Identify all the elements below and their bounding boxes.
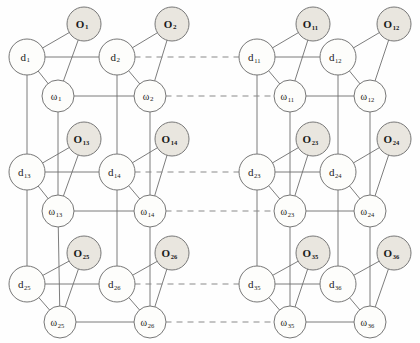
- observation-node-O23[interactable]: O23: [296, 122, 330, 156]
- decision-node-d24[interactable]: d24: [320, 154, 356, 190]
- weight-node-w1[interactable]: ω1: [42, 80, 74, 112]
- edge: [42, 32, 70, 48]
- weight-node-w11[interactable]: ω11: [274, 80, 306, 112]
- edge: [65, 269, 78, 308]
- edge: [132, 147, 158, 163]
- weight-node-w35[interactable]: ω35: [274, 306, 306, 338]
- decision-node-d26[interactable]: d26: [99, 266, 135, 302]
- decision-node-d35[interactable]: d35: [239, 266, 275, 302]
- edge: [295, 269, 308, 308]
- edge: [155, 269, 167, 308]
- edge: [353, 32, 380, 48]
- weight-node-w2[interactable]: ω2: [134, 80, 166, 112]
- weight-node-w23[interactable]: ω23: [274, 195, 306, 227]
- weight-node-w14[interactable]: ω14: [134, 195, 166, 227]
- edge: [375, 269, 388, 308]
- weight-node-w26[interactable]: ω26: [134, 306, 166, 338]
- edge: [272, 261, 298, 276]
- edge: [128, 70, 140, 84]
- edge: [272, 147, 299, 163]
- lattice-diagram: O1O2O11O12O13O14O23O24O25O26O35O36d1d2d1…: [0, 0, 420, 343]
- edge: [268, 70, 280, 84]
- observation-node-O1[interactable]: O1: [67, 7, 101, 41]
- edge: [268, 185, 280, 199]
- observation-node-O35[interactable]: O35: [296, 236, 330, 270]
- observation-node-O24[interactable]: O24: [377, 122, 411, 156]
- edge: [42, 261, 69, 276]
- edge: [349, 186, 360, 199]
- decision-node-d25[interactable]: d25: [9, 266, 45, 302]
- edge: [128, 185, 140, 199]
- edge: [128, 297, 139, 310]
- edge: [38, 297, 49, 310]
- edge: [375, 40, 389, 82]
- decision-node-d13[interactable]: d13: [9, 154, 45, 190]
- decision-node-d2[interactable]: d2: [99, 39, 135, 75]
- observation-node-O12[interactable]: O12: [377, 7, 411, 41]
- observation-node-O26[interactable]: O26: [155, 236, 189, 270]
- observation-node-O36[interactable]: O36: [377, 236, 411, 270]
- decision-node-d11[interactable]: d11: [239, 39, 275, 75]
- edge: [63, 155, 78, 197]
- edge: [132, 261, 157, 275]
- edge: [38, 186, 48, 199]
- edge: [155, 155, 168, 196]
- edge: [349, 297, 360, 310]
- observation-node-O14[interactable]: O14: [155, 122, 189, 156]
- decision-node-d23[interactable]: d23: [239, 154, 275, 190]
- decision-node-d12[interactable]: d12: [320, 39, 356, 75]
- edge: [295, 40, 308, 82]
- observation-node-O13[interactable]: O13: [67, 122, 101, 156]
- edge: [375, 155, 389, 197]
- observation-node-O25[interactable]: O25: [67, 236, 101, 270]
- edge: [63, 40, 78, 82]
- decision-node-d1[interactable]: d1: [9, 39, 45, 75]
- weight-node-w12[interactable]: ω12: [354, 80, 386, 112]
- edge: [353, 147, 380, 163]
- observation-node-O11[interactable]: O11: [296, 7, 330, 41]
- edge: [155, 40, 168, 81]
- edge: [349, 71, 360, 84]
- weight-node-w25[interactable]: ω25: [44, 306, 76, 338]
- edge: [132, 32, 158, 48]
- decision-node-d14[interactable]: d14: [99, 154, 135, 190]
- graph-canvas: O1O2O11O12O13O14O23O24O25O26O35O36d1d2d1…: [0, 0, 420, 343]
- edge: [272, 32, 299, 48]
- edge: [295, 155, 308, 197]
- observation-node-O2[interactable]: O2: [155, 7, 189, 41]
- weight-node-w36[interactable]: ω36: [354, 306, 386, 338]
- edge: [268, 297, 279, 310]
- weight-node-w24[interactable]: ω24: [354, 195, 386, 227]
- edge: [42, 147, 70, 163]
- weight-node-w13[interactable]: ω13: [42, 195, 74, 227]
- edge: [38, 71, 48, 84]
- edge: [353, 261, 379, 276]
- decision-node-d36[interactable]: d36: [320, 266, 356, 302]
